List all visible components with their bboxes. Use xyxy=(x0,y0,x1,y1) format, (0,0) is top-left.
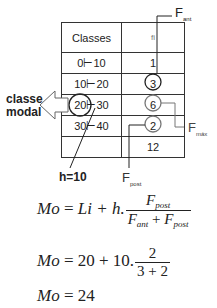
label-f-ant: Fant xyxy=(175,5,191,22)
h-leader-line xyxy=(70,108,95,168)
formula-substituted: Mo = 20 + 10. 2 3 + 2 xyxy=(37,245,170,280)
fraction-general: Fpost Fant + Fpost xyxy=(126,192,191,229)
circle-f-post xyxy=(145,116,161,132)
label-h: h=10 xyxy=(59,170,87,184)
formula-general: Mo = Li + h. Fpost Fant + Fpost xyxy=(37,192,191,229)
f-max-leader-line xyxy=(161,103,184,127)
circle-f-ant xyxy=(145,74,161,90)
arrow-left-icon xyxy=(40,91,68,119)
label-f-max: Fmáx xyxy=(188,120,207,137)
f-post-leader-line xyxy=(129,125,145,168)
label-f-post: Fpost xyxy=(122,170,141,187)
f-ant-leader-line xyxy=(157,16,172,73)
fraction-substituted: 2 3 + 2 xyxy=(135,245,170,280)
circle-f-max xyxy=(145,95,161,111)
formula-result: Mo = 24 xyxy=(37,286,95,306)
label-classe-modal: classe modal xyxy=(6,93,43,119)
circle-modal-class xyxy=(69,94,91,116)
